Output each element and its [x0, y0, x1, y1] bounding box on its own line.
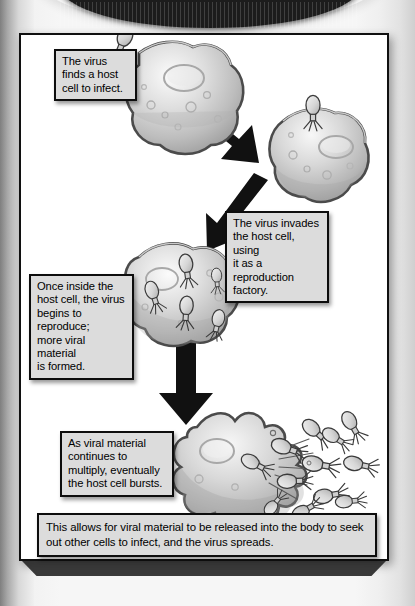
host-cell-stage4-bursting — [173, 408, 380, 526]
frame-bottom-shadow-band — [22, 561, 386, 576]
book-spine-shadow — [60, 0, 360, 28]
host-cell-stage3 — [125, 243, 239, 345]
host-cell-stage2 — [269, 95, 368, 202]
host-cell-stage1 — [126, 42, 243, 154]
arrow-stage3-to-stage4 — [159, 340, 213, 425]
caption-summary: This allows for viral material to be rel… — [37, 513, 377, 557]
caption-step-4: As viral material continues to multiply,… — [60, 431, 174, 497]
caption-step-2: The virus invades the host cell, using i… — [225, 211, 329, 303]
caption-step-3: Once inside the host cell, the virus beg… — [29, 274, 134, 380]
caption-step-1: The virus finds a host cell to infect. — [54, 49, 137, 101]
